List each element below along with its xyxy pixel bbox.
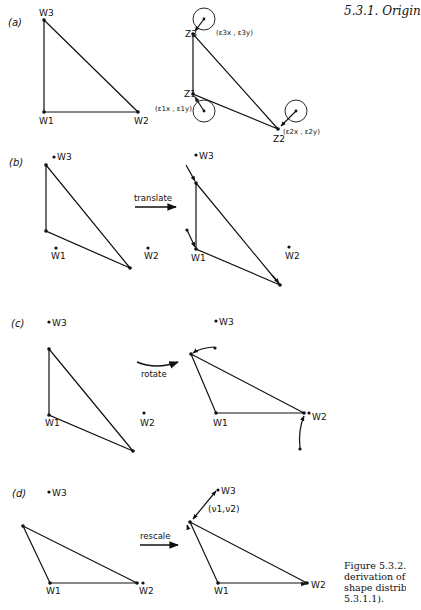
triangle-translated: [196, 183, 280, 285]
label-w3: W3: [57, 152, 72, 162]
label-z1: Z1: [184, 89, 196, 99]
label-error-3: (ε3x , ε3y): [216, 29, 253, 37]
points: [21, 18, 310, 585]
operation-rotate: rotate: [141, 369, 167, 379]
panel-label-b: (b): [9, 157, 23, 168]
label-w1: W1: [39, 116, 54, 126]
panel-c: [49, 347, 304, 451]
figure-caption: Figure 5.3.2. derivation of shape distri…: [344, 560, 414, 604]
panel-label-d: (d): [12, 488, 26, 499]
label-w1: W1: [46, 586, 61, 596]
triangle-rotated: [23, 526, 137, 583]
error-vector-1: [195, 97, 204, 111]
label-w3: W3: [199, 151, 214, 161]
panel-label-a: (a): [8, 17, 22, 28]
label-w3: W3: [52, 488, 67, 498]
label-w2: W2: [144, 251, 159, 261]
caption-line: derivation of: [344, 571, 406, 582]
label-w3: W3: [39, 8, 54, 18]
label-w2: W2: [134, 116, 149, 126]
caption-line: 5.3.1.1).: [344, 593, 406, 604]
label-w2: W2: [139, 586, 154, 596]
label-w3: W3: [52, 318, 67, 328]
rotate-arrow: [137, 362, 178, 366]
panel-b: [46, 165, 280, 285]
label-w2: W2: [311, 580, 326, 590]
small-arrow-3: [187, 525, 188, 528]
rotation-path-3: [193, 347, 214, 353]
label-nu: (ν1,ν2): [208, 504, 239, 514]
error-vector-2: [281, 111, 296, 126]
caption-line: Figure 5.3.2.: [344, 560, 406, 571]
caption-line: shape distribu: [344, 582, 406, 593]
label-w1: W1: [213, 418, 228, 428]
label-w1: W1: [51, 251, 66, 261]
triangle-w: [44, 20, 138, 112]
triangle-rotated: [191, 354, 304, 413]
label-w1: W1: [191, 253, 206, 263]
operation-rescale: rescale: [140, 531, 170, 541]
label-error-2: (ε2x , ε2y): [283, 128, 320, 136]
triangle-translated: [49, 349, 133, 451]
label-z3: Z3: [185, 29, 197, 39]
label-w2: W2: [285, 251, 300, 261]
rotation-path-2: [300, 416, 305, 448]
label-w2: W2: [312, 412, 327, 422]
operation-translate: translate: [134, 193, 172, 203]
label-w2: W2: [140, 418, 155, 428]
triangle-rescaled: [190, 522, 307, 583]
label-w1: W1: [45, 418, 60, 428]
triangle-z: [193, 34, 278, 129]
label-w3: W3: [221, 486, 236, 496]
label-w3: W3: [219, 317, 234, 327]
shift-vector-1: [187, 230, 195, 247]
label-w1: W1: [214, 586, 229, 596]
panel-label-c: (c): [11, 318, 24, 329]
shift-vector-3: [186, 165, 195, 181]
label-error-1: (ε1x , ε1y): [155, 105, 192, 113]
